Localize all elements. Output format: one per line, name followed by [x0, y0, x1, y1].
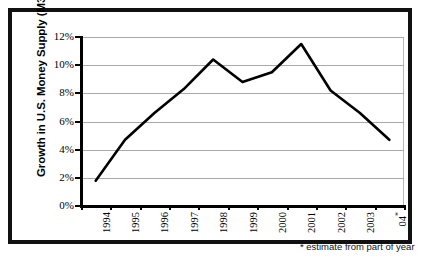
y-axis-tick-label: 0% [59, 199, 74, 211]
x-axis-tick-mark [110, 205, 112, 210]
footnote-estimate-note: * estimate from part of year [300, 241, 415, 252]
y-axis-tick-group: 0%2%4%6%8%10%12% [12, 12, 74, 252]
y-axis-tick-label: 4% [59, 143, 74, 155]
x-axis-tick-mark [257, 205, 259, 210]
x-axis-tick-mark [375, 205, 377, 210]
x-axis-tick-mark [287, 205, 289, 210]
x-axis-spine [80, 205, 405, 208]
x-axis-tick-mark [316, 205, 318, 210]
chart-figure: Growth in U.S. Money Supply (M3) 0%2%4%6… [0, 0, 443, 267]
y-axis-tick-label: 8% [59, 86, 74, 98]
x-axis-tick-label: 04* [394, 212, 408, 227]
chart-frame-border: Growth in U.S. Money Supply (M3) 0%2%4%6… [8, 8, 412, 244]
x-axis-tick-mark [169, 205, 171, 210]
x-axis-tick-label: 2001 [306, 212, 317, 233]
x-axis-tick-label: 2002 [336, 212, 347, 233]
x-axis-tick-label: 2000 [277, 212, 288, 233]
plot-area [81, 37, 404, 206]
x-axis-tick-label: 2003 [365, 212, 376, 233]
x-axis-tick-label: 1997 [189, 212, 200, 233]
x-axis-tick-mark [404, 205, 406, 210]
series-polyline [96, 44, 390, 181]
y-axis-tick-label: 2% [59, 171, 74, 183]
x-axis-tick-mark [228, 205, 230, 210]
x-axis-tick-label: 1995 [130, 212, 141, 233]
y-axis-tick-label: 12% [54, 30, 74, 42]
y-axis-spine [80, 36, 83, 208]
data-series-line [81, 37, 404, 206]
y-axis-tick-label: 10% [54, 58, 74, 70]
y-axis-tick-label: 6% [59, 115, 74, 127]
x-axis-tick-label: 1996 [159, 212, 170, 233]
x-axis-tick-mark [198, 205, 200, 210]
x-axis-tick-label: 1994 [101, 212, 112, 233]
x-axis-tick-mark [345, 205, 347, 210]
x-axis-tick-label: 1998 [218, 212, 229, 233]
x-axis-tick-label: 1999 [248, 212, 259, 233]
x-axis-tick-mark [140, 205, 142, 210]
x-axis-tick-mark [81, 205, 83, 210]
